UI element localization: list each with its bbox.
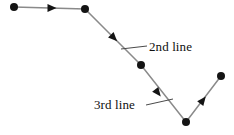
- leader-line-1: [121, 46, 147, 49]
- vertex-dot-3: [182, 118, 190, 126]
- diagram-canvas: [0, 0, 234, 135]
- annotation-label-3rd-line: 3rd line: [94, 98, 135, 111]
- annotation-label-2nd-line: 2nd line: [149, 40, 192, 53]
- vertex-dot-4: [217, 72, 225, 80]
- arrowhead-segment-3: [152, 87, 164, 99]
- vertex-dot-1: [81, 5, 89, 13]
- vertex-dot-2: [137, 61, 145, 69]
- direction-arrowheads: [48, 4, 209, 106]
- leader-line-2: [146, 99, 173, 105]
- vertex-dot-0: [10, 3, 18, 11]
- polyline-diagram-figure: 2nd line 3rd line: [0, 0, 234, 135]
- arrowhead-segment-1: [48, 4, 57, 12]
